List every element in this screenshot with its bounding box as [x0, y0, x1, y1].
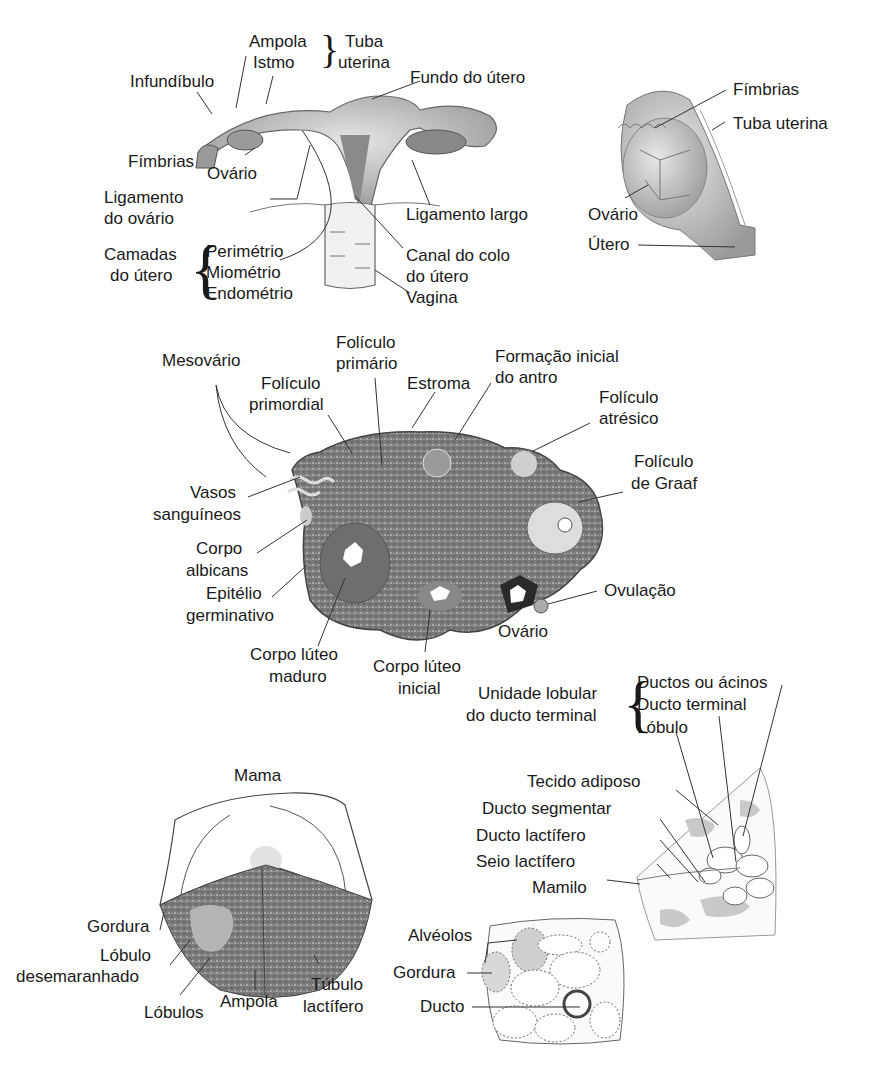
label-primordial-2: primordial [249, 395, 324, 415]
label-lobulo: Lóbulo [637, 718, 688, 738]
label-endometrio: Endométrio [206, 284, 293, 304]
label-epitelio-2: germinativo [186, 606, 274, 626]
label-unidade-2: do ducto terminal [466, 706, 596, 726]
label-alveolos: Alvéolos [408, 926, 472, 946]
label-primordial-1: Folículo [261, 374, 321, 394]
label-ductos-acinos: Ductos ou ácinos [637, 673, 767, 693]
label-ligamento-largo: Ligamento largo [406, 205, 528, 225]
label-tuba-2: uterina [338, 53, 390, 73]
label-lobulos: Lóbulos [144, 1003, 204, 1023]
label-gordura: Gordura [87, 917, 149, 937]
label-vasos-2: sanguíneos [153, 505, 241, 525]
label-fundo: Fundo do útero [410, 68, 525, 88]
label-antro-2: do antro [495, 368, 557, 388]
label-luteo-inicial-2: inicial [398, 679, 441, 699]
label-side-utero: Útero [588, 235, 630, 255]
label-vasos-1: Vasos [190, 483, 236, 503]
label-tubulo-2: lactífero [303, 997, 363, 1017]
label-ducto-terminal: Ducto terminal [637, 695, 747, 715]
label-istmo: Istmo [253, 53, 295, 73]
label-albicans-2: albicans [186, 561, 248, 581]
label-lobulo-desem-2: desemaranhado [16, 967, 139, 987]
label-side-ovario: Ovário [588, 205, 638, 225]
label-ovario: Ovário [207, 164, 257, 184]
label-ampola-breast: Ampola [220, 992, 278, 1012]
label-luteo-maduro-1: Corpo lúteo [250, 645, 338, 665]
label-estroma: Estroma [407, 374, 470, 394]
label-lobulo-desem-1: Lóbulo [100, 946, 151, 966]
brace-tuba: } [320, 30, 339, 70]
label-camadas-1: Camadas [104, 245, 177, 265]
ovary-section-drawing [288, 432, 603, 640]
label-luteo-inicial-1: Corpo lúteo [373, 657, 461, 677]
label-vagina: Vagina [406, 288, 458, 308]
label-albicans-1: Corpo [196, 539, 242, 559]
label-mamilo: Mamilo [532, 878, 587, 898]
label-side-tuba: Tuba uterina [733, 114, 828, 134]
label-atresico-2: atrésico [599, 409, 659, 429]
label-gordura-alveoli: Gordura [393, 963, 455, 983]
label-antro-1: Formação inicial [495, 347, 619, 367]
label-ovario-section: Ovário [498, 622, 548, 642]
label-graaf-2: de Graaf [631, 474, 697, 494]
label-canal-1: Canal do colo [406, 246, 510, 266]
breast-side-drawing [637, 768, 776, 940]
label-ovulacao: Ovulação [604, 581, 676, 601]
label-primario-1: Folículo [336, 333, 396, 353]
label-mesovario: Mesovário [162, 351, 240, 371]
label-primario-2: primário [336, 354, 397, 374]
alveoli-drawing [482, 918, 624, 1044]
label-ligamento-ovario-2: do ovário [104, 209, 174, 229]
label-infundibulo: Infundíbulo [130, 72, 214, 92]
label-ducto-lactifero: Ducto lactífero [476, 826, 586, 846]
label-luteo-maduro-2: maduro [269, 667, 327, 687]
label-unidade-1: Unidade lobular [478, 684, 597, 704]
label-ampola: Ampola [249, 32, 307, 52]
label-canal-2: do útero [406, 267, 468, 287]
label-tubulo-1: Túbulo [311, 975, 363, 995]
label-tuba-1: Tuba [345, 32, 383, 52]
label-camadas-2: do útero [110, 266, 172, 286]
label-side-fimbrias: Fímbrias [733, 80, 799, 100]
label-ligamento-ovario-1: Ligamento [104, 188, 183, 208]
label-epitelio-1: Epitélio [206, 584, 262, 604]
label-tecido-adiposo: Tecido adiposo [527, 772, 640, 792]
breast-front-drawing [160, 793, 372, 998]
label-miometrio: Miométrio [206, 263, 281, 283]
label-mama: Mama [234, 766, 281, 786]
label-ducto: Ducto [420, 997, 464, 1017]
label-seio-lactifero: Seio lactífero [476, 852, 575, 872]
label-graaf-1: Folículo [634, 452, 694, 472]
label-perimetrio: Perimétrio [206, 242, 283, 262]
label-atresico-1: Folículo [599, 388, 659, 408]
label-ducto-segmentar: Ducto segmentar [482, 799, 611, 819]
label-fimbrias: Fímbrias [128, 152, 194, 172]
